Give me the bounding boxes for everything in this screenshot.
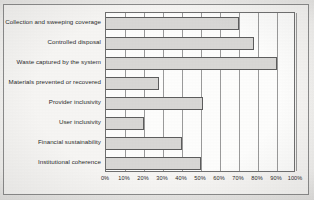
chart-figure: Collection and sweeping coverageControll… bbox=[0, 0, 314, 200]
category-label: Collection and sweeping coverage bbox=[5, 19, 101, 25]
tick-label: 20% bbox=[137, 175, 148, 181]
bar-row bbox=[106, 117, 294, 130]
bar bbox=[106, 117, 144, 130]
bar-row bbox=[106, 97, 294, 110]
category-label: Waste captured by the system bbox=[17, 59, 101, 65]
category-label: User inclusivity bbox=[59, 119, 101, 125]
tick-label: 50% bbox=[194, 175, 205, 181]
tick-label: 0% bbox=[101, 175, 109, 181]
tick-label: 100% bbox=[288, 175, 303, 181]
bar bbox=[106, 37, 254, 50]
category-label: Provider inclusivity bbox=[49, 99, 101, 105]
tick-label: 90% bbox=[270, 175, 281, 181]
tick-label: 30% bbox=[156, 175, 167, 181]
bar-row bbox=[106, 37, 294, 50]
bar-row bbox=[106, 157, 294, 170]
category-label: Controlled disposal bbox=[47, 39, 101, 45]
horizontal-bar-chart: Collection and sweeping coverageControll… bbox=[3, 4, 309, 195]
bar-row bbox=[106, 137, 294, 150]
plot-area bbox=[105, 12, 295, 172]
bar bbox=[106, 77, 159, 90]
bar bbox=[106, 157, 201, 170]
tick-label: 70% bbox=[232, 175, 243, 181]
bar bbox=[106, 97, 203, 110]
bar-row bbox=[106, 57, 294, 70]
category-label: Materials prevented or recovered bbox=[9, 79, 101, 85]
gridline bbox=[296, 13, 297, 171]
tick-label: 40% bbox=[175, 175, 186, 181]
tick-label: 80% bbox=[251, 175, 262, 181]
tick-label: 60% bbox=[213, 175, 224, 181]
bar-row bbox=[106, 77, 294, 90]
bar bbox=[106, 17, 239, 30]
bar-row bbox=[106, 17, 294, 30]
tick-label: 10% bbox=[118, 175, 129, 181]
category-label: Financial sustainability bbox=[38, 139, 101, 145]
bar bbox=[106, 137, 182, 150]
category-label: Institutional coherence bbox=[38, 159, 101, 165]
bar bbox=[106, 57, 277, 70]
